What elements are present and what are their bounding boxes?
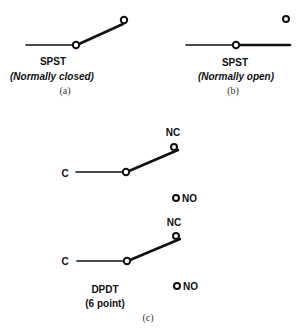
upper-pole: C NC NO: [61, 127, 197, 204]
switch-type-label: DPDT: [91, 284, 118, 295]
contact-terminal: [283, 16, 289, 22]
no-label: NO: [182, 193, 197, 204]
no-terminal: [173, 195, 179, 201]
pivot-terminal: [73, 42, 79, 48]
switch-type-label: SPST: [40, 56, 66, 67]
switch-state-label: (Normally open): [198, 71, 275, 82]
pivot-terminal: [233, 42, 239, 48]
panel-b-spst-normally-open: SPST (Normally open) (b): [186, 16, 290, 97]
switch-type-label: SPST: [222, 57, 248, 68]
lower-pole: C NC NO: [61, 217, 198, 292]
panel-a-spst-normally-closed: SPST (Normally closed) (a): [10, 17, 127, 97]
contact-terminal: [121, 17, 127, 23]
panel-caption: (c): [142, 312, 153, 324]
nc-label: NC: [166, 127, 180, 138]
nc-terminal: [171, 144, 177, 150]
switch-lever: [129, 150, 178, 171]
pivot-terminal: [124, 258, 130, 264]
panel-caption: (a): [59, 85, 70, 97]
panel-caption: (b): [227, 85, 239, 97]
nc-label: NC: [167, 217, 181, 228]
pivot-terminal: [123, 169, 129, 175]
common-label: C: [61, 256, 68, 267]
switch-lever: [79, 24, 123, 44]
switch-diagram: SPST (Normally closed) (a) SPST (Normall…: [0, 0, 299, 329]
switch-state-label: (Normally closed): [10, 71, 95, 82]
panel-c-dpdt: C NC NO C NC NO DPDT (6 point) (c): [61, 127, 198, 324]
nc-terminal: [173, 233, 179, 239]
no-terminal: [174, 283, 180, 289]
no-label: NO: [183, 281, 198, 292]
common-label: C: [61, 168, 68, 179]
switch-lever: [130, 239, 180, 260]
switch-note-label: (6 point): [85, 298, 124, 309]
